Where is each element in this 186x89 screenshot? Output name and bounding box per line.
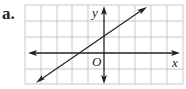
y-axis-label: y bbox=[90, 5, 98, 20]
origin-label: O bbox=[92, 54, 102, 69]
coordinate-plane: y x O bbox=[0, 0, 186, 89]
x-axis-label: x bbox=[171, 55, 178, 70]
